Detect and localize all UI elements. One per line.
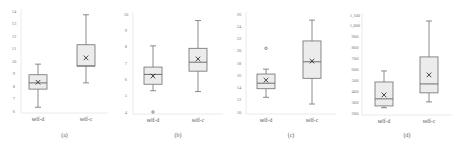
box-self-c [420,21,438,102]
box-self-d [375,71,393,108]
y-tick-label: 9 [125,28,128,33]
x-category-label: self-c [80,116,93,122]
x-category-label: self-c [423,118,436,124]
x-category-label: self-d [260,117,273,123]
outlier-point [152,111,154,113]
y-tick-label: 18 [237,61,242,66]
figure-canvas: 67891011121314self-dself-c(a)45678910sel… [0,0,456,145]
y-tick-label: 600 [352,67,360,72]
y-tick-label: 8 [125,44,128,49]
box-self-d [257,47,275,97]
y-tick-label: 200 [352,111,360,116]
iqr-box [303,41,321,78]
panel-caption: (a) [61,132,68,139]
iqr-box [189,48,207,71]
iqr-box [257,74,275,89]
y-tick-label: 22 [237,36,242,41]
y-tick-label: 900 [352,34,360,39]
y-tick-label: 4 [125,110,128,115]
chart-panel-b: 45678910self-dself-c(b) [124,12,223,139]
chart-panel-d: 2003004005006007008009001,0001,100self-d… [350,13,452,139]
y-tick-label: 6 [13,109,16,114]
y-tick-label: 9 [13,71,16,76]
y-tick-label: 300 [352,100,360,105]
y-tick-label: 500 [352,78,360,83]
box-self-c [77,15,95,83]
y-tick-label: 10 [124,12,129,17]
y-tick-label: 14 [237,85,242,90]
outlier-point [265,47,267,49]
y-tick-label: 10 [12,59,17,64]
y-tick-label: 700 [352,56,360,61]
iqr-box [375,82,393,106]
y-tick-label: 14 [12,9,17,14]
x-category-label: self-c [192,117,205,123]
y-tick-label: 400 [352,89,360,94]
y-tick-label: 11 [12,46,17,51]
panel-caption: (d) [404,132,411,139]
y-tick-label: 800 [352,45,360,50]
box-self-d [144,46,162,113]
y-tick-label: 1,100 [350,13,361,19]
iqr-box [77,45,95,66]
x-category-label: self-d [378,118,391,124]
y-tick-label: 7 [125,61,128,66]
box-self-c [303,20,321,104]
y-tick-label: 7 [13,96,16,101]
box-self-d [29,64,47,107]
y-tick-label: 10 [237,110,242,115]
x-category-label: self-d [147,117,160,123]
y-tick-label: 1,000 [350,23,361,29]
y-tick-label: 6 [125,77,128,82]
chart-panel-a: 67891011121314self-dself-c(a) [12,9,108,139]
chart-panel-c: 101214161820222426self-dself-c(c) [237,12,336,139]
y-tick-label: 12 [12,34,17,39]
y-tick-label: 26 [237,12,242,17]
y-tick-label: 8 [13,84,16,89]
y-tick-label: 16 [237,73,242,78]
box-self-c [189,21,207,92]
y-tick-label: 5 [125,93,128,98]
y-tick-label: 24 [237,24,242,29]
x-category-label: self-c [306,117,319,123]
box-plot-figure: 67891011121314self-dself-c(a)45678910sel… [0,0,456,145]
panel-caption: (c) [288,132,295,139]
x-category-label: self-d [32,116,45,122]
panel-caption: (b) [175,132,182,139]
y-tick-label: 20 [237,48,242,53]
y-tick-label: 12 [237,97,242,102]
y-tick-label: 13 [12,21,17,26]
